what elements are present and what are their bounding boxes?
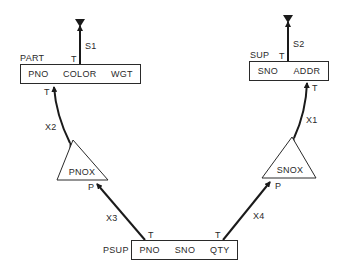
x3-link xyxy=(97,184,145,240)
pnox-index-name: PNOX xyxy=(69,167,96,177)
part-field-pno: PNO xyxy=(28,69,48,79)
x1-from-label: T xyxy=(312,84,318,93)
x4-to-label: P xyxy=(275,182,281,191)
psup-record-box: PNO SNO QTY xyxy=(131,240,238,260)
x4-link-label: X4 xyxy=(253,212,265,221)
x1-link-label: X1 xyxy=(306,116,318,125)
psup-field-pno: PNO xyxy=(139,245,159,255)
entry-point-icon xyxy=(75,19,85,27)
part-field-color: COLOR xyxy=(63,69,97,79)
snox-index-name: SNOX xyxy=(277,165,304,175)
psup-record-name: PSUP xyxy=(103,246,129,255)
part-field-wgt: WGT xyxy=(111,69,133,79)
psup-field-qty: QTY xyxy=(210,245,229,255)
x3-from-label: T xyxy=(148,231,154,240)
psup-field-sno: SNO xyxy=(175,245,195,255)
x2-link-label: X2 xyxy=(45,123,57,132)
sup-record-name: SUP xyxy=(250,51,269,60)
s2-link-label: S2 xyxy=(293,40,305,49)
s2-end-label: T xyxy=(279,52,285,61)
x2-link xyxy=(54,87,70,143)
sup-record-box: SNO ADDR xyxy=(249,61,329,81)
s1-end-label: T xyxy=(71,55,77,64)
x1-link xyxy=(294,83,307,138)
x3-to-label: P xyxy=(88,183,94,192)
diagram-canvas: PART PNO COLOR WGT SUP SNO ADDR PSUP PNO… xyxy=(0,0,347,274)
sup-field-addr: ADDR xyxy=(294,66,321,76)
x2-from-label: T xyxy=(44,88,50,97)
part-record-box: PNO COLOR WGT xyxy=(20,64,141,84)
sup-field-sno: SNO xyxy=(258,66,278,76)
entry-point-icon xyxy=(283,15,293,23)
s1-link-label: S1 xyxy=(85,42,97,51)
part-record-name: PART xyxy=(20,54,44,63)
x3-link-label: X3 xyxy=(106,214,118,223)
x4-from-label: T xyxy=(215,231,221,240)
